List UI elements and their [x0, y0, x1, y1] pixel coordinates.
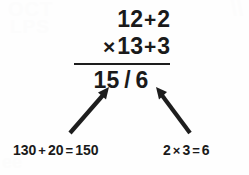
- times-operator: ×: [103, 34, 115, 60]
- right-note-b: 3: [182, 142, 190, 158]
- result-right: 6: [136, 67, 149, 93]
- scanned-worksheet: OCT LPS \\ ee 12 + 2 × 13 + 3 15 / 6: [0, 0, 249, 175]
- plus-operator-row2: +: [144, 34, 156, 60]
- left-annotation-note: 130+20=150: [13, 142, 98, 159]
- sum-row-multiplicand: 12 + 2: [74, 6, 170, 33]
- multiplicand-tens: 12: [117, 6, 143, 32]
- multiplicand-units: 2: [157, 6, 170, 32]
- left-note-operator: +: [38, 143, 46, 158]
- left-note-a: 130: [13, 142, 36, 158]
- left-note-equals: =: [66, 143, 74, 158]
- right-annotation-note: 2×3=6: [163, 142, 210, 159]
- scan-artifact-top-right: \\: [231, 0, 243, 22]
- sum-row-result: 15 / 6: [74, 67, 170, 93]
- left-note-b: 20: [48, 142, 64, 158]
- multiplier-tens: 13: [117, 33, 143, 59]
- scan-artifact-top-left: OCT: [8, 0, 53, 21]
- result-left: 15: [94, 67, 120, 93]
- multiplication-sum: 12 + 2 × 13 + 3 15 / 6: [74, 6, 170, 93]
- sum-horizontal-rule: [74, 63, 170, 65]
- right-note-operator: ×: [173, 143, 181, 158]
- plus-operator-row1: +: [144, 7, 156, 33]
- sum-row-multiplier: × 13 + 3: [74, 33, 170, 60]
- multiplier-units: 3: [157, 33, 170, 59]
- right-note-result: 6: [202, 142, 210, 158]
- right-annotation-arrow: [156, 87, 190, 133]
- left-annotation-arrow: [70, 87, 109, 133]
- right-note-equals: =: [192, 143, 200, 158]
- result-separator: /: [124, 67, 130, 93]
- scan-artifact-top-left-second: LPS: [10, 16, 50, 38]
- left-note-result: 150: [75, 142, 98, 158]
- right-note-a: 2: [163, 142, 171, 158]
